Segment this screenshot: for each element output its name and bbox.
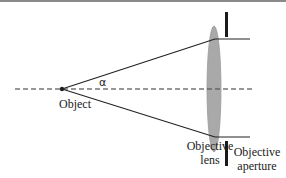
upper-ray	[62, 39, 215, 89]
aperture-label-line2: aperture	[229, 159, 285, 173]
object-label: Object	[59, 97, 91, 111]
aperture-label-line1: Objective	[229, 145, 285, 159]
angle-alpha-label: α	[99, 76, 106, 90]
objective-aperture-label: Objective aperture	[229, 145, 285, 173]
object-point	[60, 87, 64, 91]
aperture-bar-upper	[225, 12, 228, 37]
